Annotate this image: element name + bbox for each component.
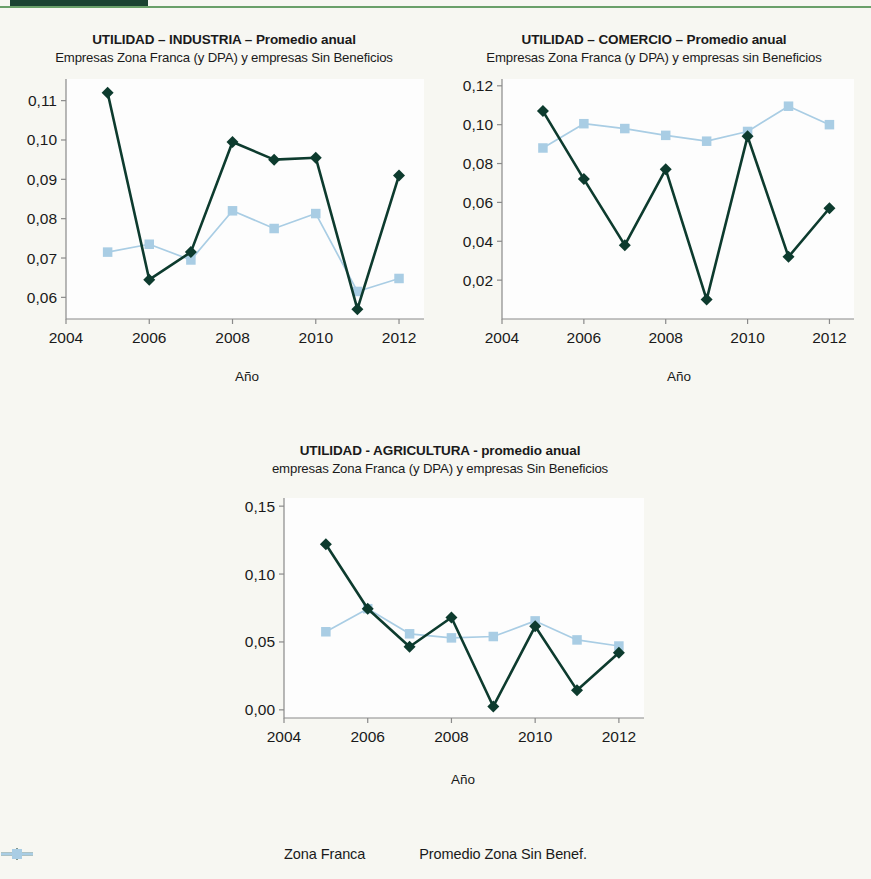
data-point-zona-franca (351, 303, 363, 315)
legend-label: Zona Franca (284, 846, 365, 862)
square-marker-icon (0, 846, 34, 862)
data-point-zona-franca (393, 169, 405, 181)
chart-subtitle: empresas Zona Franca (y DPA) y empresas … (222, 461, 658, 476)
chart-svg: 0,000,050,100,1520042006200820102012 (222, 476, 658, 766)
data-point-zona-franca (310, 152, 322, 164)
x-tick-label: 2008 (434, 728, 468, 745)
chart-utilidad-agricultura: UTILIDAD - AGRICULTURA - promedio anual … (222, 443, 658, 833)
data-point-sin-beneficios (572, 635, 582, 645)
x-tick-label: 2004 (267, 728, 302, 745)
x-tick-label: 2004 (49, 329, 84, 346)
x-axis-title: Año (490, 369, 868, 384)
data-point-sin-beneficios (394, 274, 404, 284)
legend-label: Promedio Zona Sin Benef. (419, 846, 587, 862)
y-tick-label: 0,10 (463, 116, 494, 133)
x-tick-label: 2008 (215, 329, 249, 346)
data-point-sin-beneficios (145, 239, 155, 249)
chart-svg: 0,060,070,080,090,100,112004200620082010… (8, 65, 440, 365)
y-tick-label: 0,05 (245, 633, 275, 650)
data-point-sin-beneficios (489, 632, 499, 642)
chart-utilidad-industria: UTILIDAD – INDUSTRIA – Promedio anual Em… (8, 32, 440, 392)
y-tick-label: 0,10 (245, 566, 276, 583)
x-tick-label: 2012 (812, 329, 846, 346)
x-axis-title: Año (54, 369, 440, 384)
data-point-sin-beneficios (311, 209, 321, 219)
chart-svg: 0,020,040,060,080,100,122004200620082010… (440, 65, 868, 365)
data-point-sin-beneficios (447, 633, 457, 643)
series-line-zona-franca (543, 111, 830, 300)
y-tick-label: 0,08 (463, 155, 493, 172)
data-point-zona-franca (102, 87, 114, 99)
x-tick-label: 2006 (567, 329, 601, 346)
data-point-sin-beneficios (579, 119, 589, 128)
y-tick-label: 0,09 (27, 171, 57, 188)
data-point-zona-franca (701, 294, 713, 306)
y-tick-label: 0,10 (27, 131, 58, 148)
data-point-sin-beneficios (620, 124, 630, 134)
y-tick-label: 0,15 (245, 498, 275, 515)
data-point-zona-franca (268, 154, 280, 166)
x-tick-label: 2010 (518, 728, 553, 745)
x-tick-label: 2004 (485, 329, 520, 346)
legend-item-zona-franca: Zona Franca (284, 846, 365, 862)
data-point-zona-franca (487, 700, 499, 712)
series-line-zona-franca (326, 544, 619, 706)
data-point-sin-beneficios (228, 206, 238, 216)
y-tick-label: 0,12 (463, 77, 493, 94)
data-point-sin-beneficios (103, 247, 113, 256)
x-axis-title: Año (268, 772, 658, 787)
chart-utilidad-comercio: UTILIDAD – COMERCIO – Promedio anual Emp… (440, 32, 868, 392)
y-tick-label: 0,00 (245, 701, 276, 718)
x-tick-label: 2010 (299, 329, 334, 346)
x-tick-label: 2008 (648, 329, 682, 346)
data-point-zona-franca (660, 163, 672, 175)
data-point-sin-beneficios (269, 224, 279, 234)
y-tick-label: 0,06 (463, 194, 493, 211)
plot-area: 0,060,070,080,090,100,112004200620082010… (8, 65, 440, 365)
header-rule-line (0, 6, 871, 8)
data-point-zona-franca (578, 173, 590, 185)
data-point-sin-beneficios (405, 629, 415, 639)
data-point-zona-franca (227, 136, 239, 148)
x-tick-label: 2006 (132, 329, 166, 346)
chart-subtitle: Empresas Zona Franca (y DPA) y empresas … (8, 50, 440, 65)
data-point-sin-beneficios (702, 136, 712, 146)
y-tick-label: 0,11 (28, 92, 57, 109)
chart-subtitle: Empresas Zona Franca (y DPA) y empresas … (440, 50, 868, 65)
data-point-zona-franca (537, 105, 549, 117)
y-tick-label: 0,06 (27, 289, 57, 306)
y-tick-label: 0,04 (463, 233, 494, 250)
plot-area: 0,000,050,100,1520042006200820102012 (222, 476, 658, 766)
data-point-sin-beneficios (825, 120, 835, 130)
chart-legend: Zona Franca Promedio Zona Sin Benef. (0, 846, 871, 862)
x-tick-label: 2012 (382, 329, 416, 346)
y-tick-label: 0,02 (463, 272, 493, 289)
plot-area: 0,020,040,060,080,100,122004200620082010… (440, 65, 868, 365)
data-point-sin-beneficios (321, 627, 331, 637)
data-point-sin-beneficios (661, 131, 671, 141)
data-point-sin-beneficios (538, 143, 548, 153)
y-tick-label: 0,07 (27, 250, 57, 267)
legend-item-sin-beneficios: Promedio Zona Sin Benef. (419, 846, 587, 862)
chart-title: UTILIDAD – COMERCIO – Promedio anual (440, 32, 868, 47)
x-tick-label: 2010 (730, 329, 765, 346)
data-point-zona-franca (619, 239, 631, 251)
y-tick-label: 0,08 (27, 210, 57, 227)
chart-title: UTILIDAD – INDUSTRIA – Promedio anual (8, 32, 440, 47)
data-point-sin-beneficios (784, 101, 794, 111)
chart-title: UTILIDAD - AGRICULTURA - promedio anual (222, 443, 658, 458)
x-tick-label: 2006 (350, 728, 384, 745)
x-tick-label: 2012 (602, 728, 636, 745)
